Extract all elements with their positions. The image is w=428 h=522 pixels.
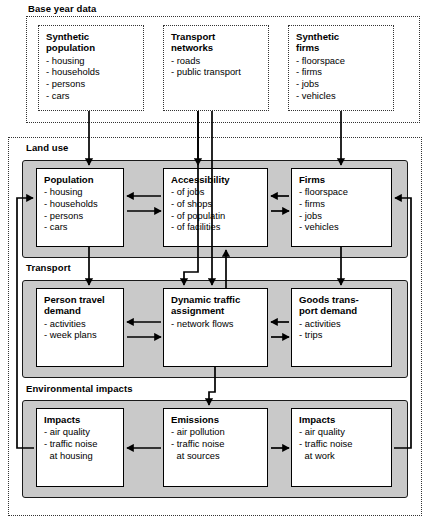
node-items: - activities - trips xyxy=(299,318,385,341)
node-items: - roads - public transport xyxy=(171,55,262,78)
node-item: - activities xyxy=(44,318,117,330)
node-title: Accessibility xyxy=(171,174,261,185)
node-item: at sources xyxy=(171,450,261,462)
node-item: - firms xyxy=(299,198,385,210)
node-item: - cars xyxy=(46,90,137,102)
node-item: at work xyxy=(299,450,385,462)
node-items: - air quality - traffic noise at housing xyxy=(44,426,117,461)
node-title: Impacts xyxy=(299,414,385,425)
node-impacts-work: Impacts - air quality - traffic noise at… xyxy=(291,408,392,487)
node-item: - of facilities xyxy=(171,221,261,233)
node-goods-transport-demand: Goods trans- port demand - activities - … xyxy=(291,288,392,367)
node-items: - floorspace - firms - jobs - vehicles xyxy=(299,186,385,232)
node-title: Emissions xyxy=(171,414,261,425)
node-title: Goods trans- port demand xyxy=(299,294,385,317)
node-items: - floorspace - firms - jobs - vehicles xyxy=(296,55,387,101)
node-items: - air pollution - traffic noise at sourc… xyxy=(171,426,261,461)
node-item: - of populatin xyxy=(171,210,261,222)
node-item: - traffic noise xyxy=(44,438,117,450)
node-item: - activities xyxy=(299,318,385,330)
node-item: - of jobs xyxy=(171,186,261,198)
node-item: - persons xyxy=(44,210,117,222)
node-person-travel-demand: Person travel demand - activities - week… xyxy=(36,288,124,367)
node-synthetic-population: Synthetic population - housing - househo… xyxy=(38,25,144,111)
node-item: at housing xyxy=(44,450,117,462)
group-label-environmental-impacts: Environmental impacts xyxy=(24,383,135,394)
node-item: - jobs xyxy=(299,210,385,222)
node-item: - public transport xyxy=(171,66,262,78)
node-title: Transport networks xyxy=(171,31,262,54)
node-item: - floorspace xyxy=(299,186,385,198)
node-items: - network flows xyxy=(171,318,261,330)
node-title: Person travel demand xyxy=(44,294,117,317)
node-item: - trips xyxy=(299,329,385,341)
node-item: - housing xyxy=(46,55,137,67)
node-title: Firms xyxy=(299,174,385,185)
node-firms: Firms - floorspace - firms - jobs - vehi… xyxy=(291,168,392,247)
node-transport-networks: Transport networks - roads - public tran… xyxy=(163,25,269,111)
group-label-land-use: Land use xyxy=(24,142,71,153)
node-title: Impacts xyxy=(44,414,117,425)
node-item: - jobs xyxy=(296,78,387,90)
node-item: - vehicles xyxy=(299,221,385,233)
node-item: - traffic noise xyxy=(171,438,261,450)
node-item: - firms xyxy=(296,66,387,78)
node-item: - week plans xyxy=(44,329,117,341)
node-accessibility: Accessibility - of jobs - of shops - of … xyxy=(163,168,268,247)
node-item: - households xyxy=(44,198,117,210)
node-item: - housing xyxy=(44,186,117,198)
node-emissions: Emissions - air pollution - traffic nois… xyxy=(163,408,268,487)
node-item: - persons xyxy=(46,78,137,90)
node-item: - air quality xyxy=(44,426,117,438)
node-items: - air quality - traffic noise at work xyxy=(299,426,385,461)
model-diagram: Base year data Synthetic population - ho… xyxy=(0,0,428,522)
node-title: Dynamic traffic assignment xyxy=(171,294,261,317)
node-item: - cars xyxy=(44,221,117,233)
node-item: - of shops xyxy=(171,198,261,210)
node-items: - of jobs - of shops - of populatin - of… xyxy=(171,186,261,232)
node-synthetic-firms: Synthetic firms - floorspace - firms - j… xyxy=(288,25,394,111)
node-dynamic-traffic-assignment: Dynamic traffic assignment - network flo… xyxy=(163,288,268,367)
node-items: - housing - households - persons - cars xyxy=(44,186,117,232)
node-items: - activities - week plans xyxy=(44,318,117,341)
node-item: - vehicles xyxy=(296,90,387,102)
node-title: Synthetic population xyxy=(46,31,137,54)
group-label-base-year-data: Base year data xyxy=(26,3,98,14)
node-item: - roads xyxy=(171,55,262,67)
node-population: Population - housing - households - pers… xyxy=(36,168,124,247)
node-impacts-housing: Impacts - air quality - traffic noise at… xyxy=(36,408,124,487)
node-title: Synthetic firms xyxy=(296,31,387,54)
node-items: - housing - households - persons - cars xyxy=(46,55,137,101)
node-item: - floorspace xyxy=(296,55,387,67)
group-label-transport: Transport xyxy=(24,262,73,273)
node-item: - households xyxy=(46,66,137,78)
node-title: Population xyxy=(44,174,117,185)
node-item: - air pollution xyxy=(171,426,261,438)
node-item: - traffic noise xyxy=(299,438,385,450)
node-item: - network flows xyxy=(171,318,261,330)
node-item: - air quality xyxy=(299,426,385,438)
